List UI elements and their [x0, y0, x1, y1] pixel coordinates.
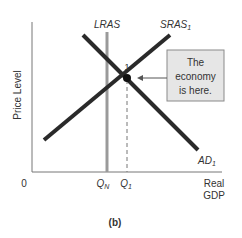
callout-text-line2: economy — [175, 71, 216, 82]
lras-label: LRAS — [94, 19, 120, 30]
arrow-head-icon — [137, 75, 143, 81]
callout-text-line1: The — [187, 57, 205, 68]
panel-label: (b) — [109, 217, 122, 228]
x-axis-label-line2: GDP — [203, 190, 225, 201]
q1-tick-label: Q1 — [120, 178, 132, 190]
origin-label: 0 — [21, 178, 27, 189]
ad-label: AD1 — [197, 155, 216, 167]
qn-tick-label: QN — [97, 178, 111, 190]
equilibrium-label: 1 — [124, 62, 129, 72]
x-axis-label-line1: Real — [204, 178, 225, 189]
sras-label: SRAS1 — [160, 19, 191, 31]
y-axis-label: Price Level — [12, 70, 23, 119]
equilibrium-point — [123, 74, 131, 82]
economics-diagram: LRAS SRAS1 AD1 1 The economy is here. Pr… — [0, 0, 242, 238]
callout-text-line3: is here. — [179, 85, 212, 96]
